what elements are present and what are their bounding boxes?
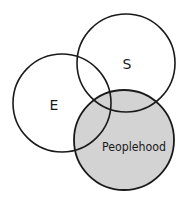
venn-diagram: E S Peoplehood (0, 0, 184, 204)
peoplehood-label: Peoplehood (102, 139, 166, 154)
s-label: S (123, 56, 132, 72)
e-label: E (50, 97, 59, 113)
